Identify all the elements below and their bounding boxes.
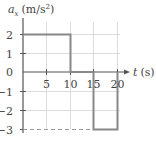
x-tick-label: 10 xyxy=(64,78,78,91)
y-tick-label: −2 xyxy=(0,105,13,118)
x-tick-label: 20 xyxy=(111,78,125,91)
y-tick-label: 2 xyxy=(6,29,13,42)
x-axis-arrow-icon xyxy=(124,70,130,75)
y-tick-labels: 2 1 0 −1 −2 −3 xyxy=(0,29,13,137)
y-axis-units-close: ) xyxy=(50,3,54,16)
y-axis-subscript: x xyxy=(15,10,19,18)
y-tick-label: 1 xyxy=(6,48,13,61)
y-tick-label: −1 xyxy=(0,86,13,99)
y-tick-label: 0 xyxy=(6,66,13,79)
x-axis-units: (s) xyxy=(140,66,154,79)
x-tick-labels: 5 10 15 20 xyxy=(43,78,125,91)
y-axis-units: (m/s xyxy=(22,3,46,16)
x-axis-title: t(s) xyxy=(133,66,155,79)
x-axis-var: t xyxy=(133,66,138,79)
y-tick-label: −3 xyxy=(0,124,13,137)
acceleration-time-chart: 2 1 0 −1 −2 −3 5 10 15 20 ax(m/s2) t(s) xyxy=(0,0,156,143)
y-axis-title: ax(m/s2) xyxy=(8,3,54,18)
x-tick-label: 5 xyxy=(43,78,50,91)
x-tick-label: 15 xyxy=(87,78,101,91)
